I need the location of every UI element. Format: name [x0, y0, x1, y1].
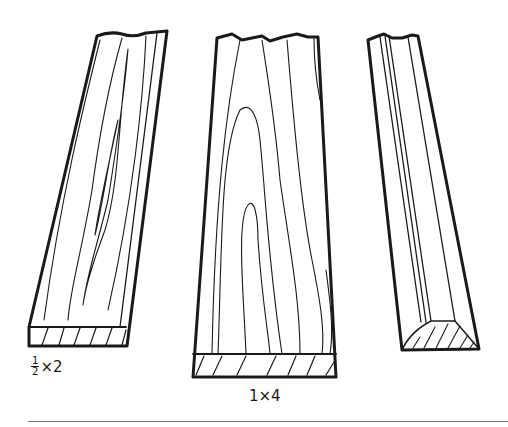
- board-half-by-two-label: 1 2 ×2: [31, 356, 63, 377]
- divider-rule: [28, 421, 508, 422]
- label-suffix: ×2: [40, 358, 62, 376]
- board-half-by-two: [29, 31, 167, 346]
- fraction: 1 2: [31, 356, 39, 377]
- board-one-by-four: [193, 34, 336, 377]
- fraction-denominator: 2: [31, 367, 39, 377]
- molding-strip: [368, 34, 479, 350]
- board-one-by-four-label: 1×4: [249, 387, 281, 405]
- lumber-illustration: [0, 0, 508, 427]
